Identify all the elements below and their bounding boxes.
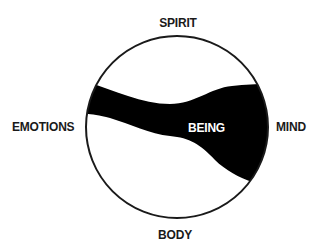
label-body: BODY <box>0 228 320 242</box>
label-emotions: EMOTIONS <box>12 120 74 134</box>
label-mind: MIND <box>276 120 306 134</box>
label-spirit: SPIRIT <box>0 16 320 30</box>
label-being: BEING <box>188 121 225 135</box>
being-diagram: SPIRIT BODY EMOTIONS MIND BEING <box>0 0 320 252</box>
